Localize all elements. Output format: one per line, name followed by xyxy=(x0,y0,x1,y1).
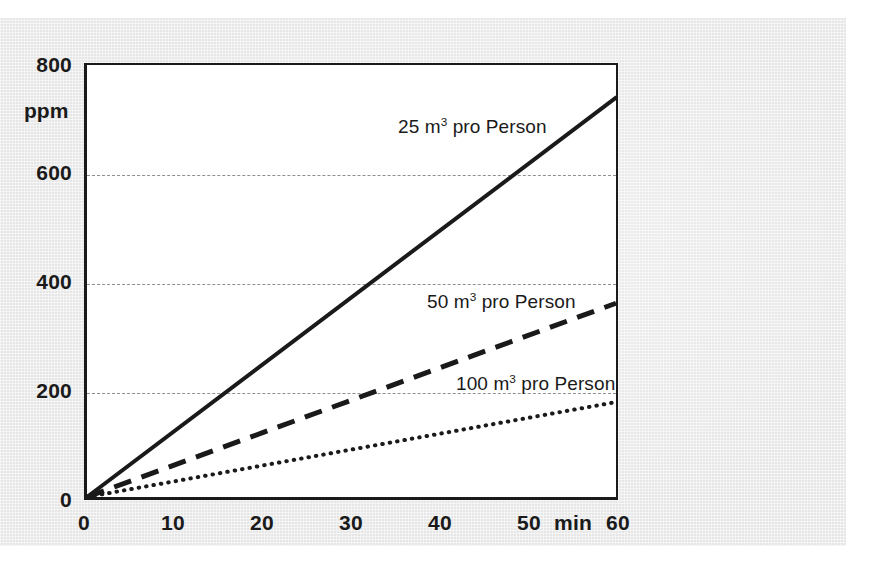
x-tick-label-30: 30 xyxy=(339,511,363,535)
chart-figure: 800 ppm 600 400 200 0 0 10 20 30 40 50 m… xyxy=(0,0,871,574)
series-annotation-25: 25 m3 pro Person xyxy=(398,116,547,138)
y-tick-label-0: 0 xyxy=(24,488,72,512)
series-annotation-25-unit: m xyxy=(425,116,441,137)
x-tick-label-20: 20 xyxy=(250,511,274,535)
series-annotation-50: 50 m3 pro Person xyxy=(427,291,576,313)
x-tick-label-40: 40 xyxy=(428,511,452,535)
y-axis-unit-label: ppm xyxy=(24,99,68,123)
x-axis-unit-label: min xyxy=(554,511,592,535)
series-annotation-50-number: 50 xyxy=(427,291,454,312)
series-annotation-50-suffix: pro Person xyxy=(476,291,575,312)
series-annotation-50-unit: m xyxy=(454,291,470,312)
series-annotation-100-exponent: 3 xyxy=(509,372,516,385)
y-tick-label-400: 400 xyxy=(24,270,72,294)
x-tick-label-60: 60 xyxy=(606,511,630,535)
y-tick-label-600: 600 xyxy=(24,161,72,185)
series-annotation-100-suffix: pro Person xyxy=(516,373,615,394)
y-tick-label-200: 200 xyxy=(24,379,72,403)
series-annotation-25-number: 25 xyxy=(398,116,425,137)
y-tick-label-800: 800 xyxy=(24,53,72,77)
series-line-100 xyxy=(87,402,616,497)
x-tick-label-10: 10 xyxy=(161,511,185,535)
series-annotation-100-number: 100 xyxy=(456,373,493,394)
series-annotation-100: 100 m3 pro Person xyxy=(456,373,615,395)
x-tick-label-0: 0 xyxy=(78,511,90,535)
series-annotation-100-unit: m xyxy=(493,373,509,394)
series-line-50 xyxy=(87,303,616,497)
series-annotation-25-suffix: pro Person xyxy=(447,116,546,137)
x-tick-label-50: 50 xyxy=(517,511,541,535)
